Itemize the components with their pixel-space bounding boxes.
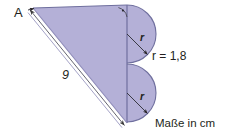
geometry-figure-root: r r A 9 r = 1,8 Maße in cm	[0, 0, 230, 135]
right-angle-dot	[122, 10, 124, 12]
vertex-a-label: A	[14, 5, 23, 20]
units-note-label: Maße in cm	[155, 117, 215, 129]
radius-value-label: r = 1,8	[152, 49, 187, 63]
geometry-diagram: r r A 9 r = 1,8 Maße in cm	[0, 0, 230, 135]
hypotenuse-length-label: 9	[62, 68, 69, 82]
